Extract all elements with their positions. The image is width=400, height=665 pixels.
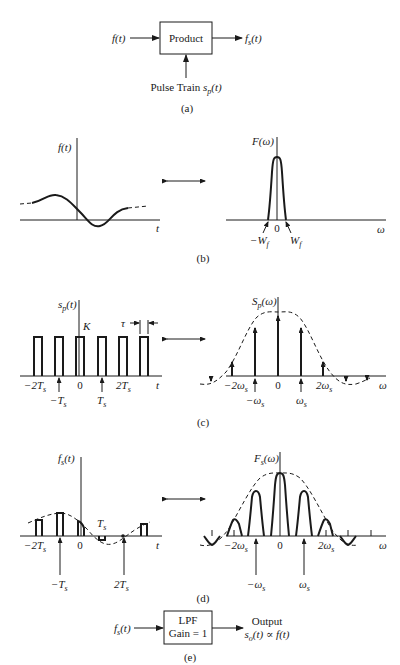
Fs-omega-label: Fs(ω) [253,452,279,467]
zero-label-b: 0 [274,222,280,234]
tick-ws-d: ωs [299,578,310,593]
lpf-label: LPF [179,614,198,626]
tick-neg-2ws: −2ωs [224,379,248,394]
F-omega-label: F(ω) [251,135,274,148]
caption-e: (e) [184,651,197,664]
caption-b: (b) [197,252,210,265]
neg-wf-arrow [263,222,268,233]
tick-neg-Ts-d: −Ts [51,578,68,593]
t-axis-label-b: t [156,222,160,234]
tick-neg-2Ts: −2Ts [24,379,46,394]
tick-zero-c: 0 [77,379,83,391]
signal-dashed-left [20,203,32,204]
tick-2Ts: 2Ts [116,379,131,394]
input-label-f: f(t) [112,32,126,45]
tick-2ws-d: 2ωs [318,539,334,554]
fs-input-label: fs(t) [114,622,131,637]
impulse-lines [211,316,367,381]
tick-neg-Ts: −Ts [50,394,67,409]
pulse-rectangles [34,337,148,376]
signal-curve [32,195,128,226]
tick-neg-2ws-d: −2ωs [224,539,248,554]
f-t-label: f(t) [58,141,72,154]
t-axis-label-d: t [156,539,160,551]
output-expression: so(t) ∝ f(t) [244,628,289,643]
panel-b-signal-and-spectrum: f(t) t F(ω) ω 0 −Wf Wf (b) [20,135,386,265]
pos-wf-arrow [286,222,291,233]
omega-axis-label-d: ω [379,539,387,551]
pulse-height-K: K [82,320,91,332]
omega-axis-label-b: ω [377,223,385,235]
output-label: Output [252,615,283,627]
tick-ws: ωs [296,394,307,409]
panel-d-sampled-signal: fs(t) Ts −2Ts 0 t −Ts 2Ts Fs(ω) [20,452,387,605]
sinc-envelope-d [200,473,358,546]
tick-neg-ws-d: −ωs [247,578,265,593]
fs-t-label: fs(t) [58,452,75,467]
caption-d: (d) [197,592,210,605]
output-label-fs: fs(t) [245,32,262,47]
caption-a: (a) [181,102,194,115]
sp-t-label: sp(t) [58,298,77,313]
caption-c: (c) [197,416,210,429]
sampling-diagram: f(t) Product fs(t) Pulse Train sp(t) (a)… [0,0,400,665]
tick-zero-d-right: 0 [277,539,283,551]
tick-neg-ws: −ωs [246,394,264,409]
gain-label: Gain = 1 [169,627,208,639]
neg-wf-label: −Wf [250,234,271,249]
sinc-envelope [200,312,370,385]
panel-a-block-diagram: f(t) Product fs(t) Pulse Train sp(t) (a) [112,22,262,115]
tick-2ws: 2ωs [316,379,332,394]
tick-2Ts-d: 2Ts [114,578,129,593]
tau-label: τ [121,317,126,329]
panel-c-pulse-train: sp(t) K τ −2Ts 0 2Ts t −Ts Ts Sp(ω) [20,295,387,429]
panel-e-lowpass-filter: fs(t) LPF Gain = 1 Output so(t) ∝ f(t) (… [114,611,290,664]
Sp-omega-label: Sp(ω) [252,295,277,310]
tick-marks-d [212,530,371,536]
signal-dashed-right [128,206,148,208]
tick-Ts-d: Ts [97,517,106,532]
pos-wf-label: Wf [290,234,303,249]
tick-Ts: Ts [97,394,106,409]
t-axis-label-c: t [156,379,160,391]
omega-axis-label-c: ω [379,379,387,391]
zero-crossing-dot [121,534,125,538]
tick-zero-d: 0 [77,539,83,551]
product-label: Product [169,32,203,44]
pulse-train-label: Pulse Train sp(t) [150,81,222,96]
tick-zero-c-right: 0 [275,379,281,391]
envelope-dashed [28,513,150,544]
tick-neg-2Ts-d: −2Ts [24,539,46,554]
